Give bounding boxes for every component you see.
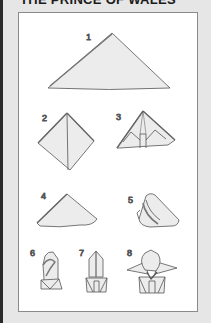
step-5-illustration [137,194,179,227]
step-6-label: 6 [30,248,35,258]
step-4-label: 4 [41,191,46,201]
step-5-label: 5 [128,195,133,205]
step-3-label: 3 [116,112,121,122]
step-7-label: 7 [79,248,84,258]
step-7-illustration [86,251,107,292]
folding-diagram: 1 2 3 4 [0,0,211,323]
step-1-label: 1 [86,32,91,42]
step-1-illustration [48,33,170,90]
step-3-illustration [117,111,175,148]
step-8-illustration [127,250,177,293]
step-6-illustration [41,252,62,289]
step-8-label: 8 [127,248,132,258]
step-2-label: 2 [42,113,47,123]
